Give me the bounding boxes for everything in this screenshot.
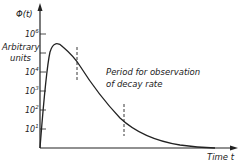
- y-axis-symbol: Φ(t): [16, 9, 33, 19]
- y-axis-units-line2: units: [10, 53, 31, 63]
- tick-label-10-4: 104: [25, 66, 39, 77]
- tick-label-10-3: 103: [25, 85, 39, 96]
- annotation-line2: of decay rate: [106, 79, 162, 89]
- x-axis-label: Time t: [207, 152, 235, 162]
- phi-curve: [40, 44, 215, 148]
- annotation-line1: Period for observation: [106, 67, 200, 77]
- tick-label-10-6: 106: [25, 28, 39, 39]
- tick-label-10-2: 102: [25, 104, 39, 115]
- y-axis-arrow-icon: [38, 3, 43, 11]
- x-axis-arrow-icon: [230, 146, 238, 151]
- tick-label-10-1: 101: [25, 123, 39, 134]
- y-axis-units-line1: Arbitrary: [1, 42, 41, 52]
- decay-rate-chart: 101 102 103 104 106 Φ(t) Arbitrary units…: [0, 0, 241, 162]
